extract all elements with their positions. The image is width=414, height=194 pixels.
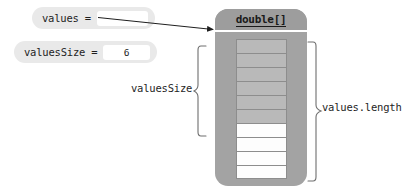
double-array-object: double[] <box>215 9 307 186</box>
array-cell <box>236 95 287 109</box>
valuessize-variable-label: valuesSize = <box>24 46 97 58</box>
array-cell <box>236 39 287 53</box>
valueslength-brace-icon <box>305 40 323 186</box>
values-reference-arrow <box>0 0 414 194</box>
values-variable-label: values = <box>42 12 91 24</box>
values-variable-box: values = <box>32 7 155 29</box>
valuessize-brace-icon <box>192 44 210 138</box>
array-cell <box>236 81 287 95</box>
array-cell <box>236 67 287 81</box>
array-cell-list <box>236 39 287 179</box>
array-cell <box>236 109 287 123</box>
values-variable-value <box>97 11 148 26</box>
valuessize-variable-value: 6 <box>103 45 150 60</box>
array-type-header: double[] <box>215 9 307 32</box>
array-cell <box>236 151 287 165</box>
valuessize-brace-label: valuesSize <box>131 82 192 94</box>
array-cell <box>236 53 287 67</box>
array-cell <box>236 123 287 137</box>
valuessize-variable-box: valuesSize = 6 <box>14 41 157 63</box>
array-cell <box>236 137 287 151</box>
valueslength-brace-label: values.length <box>322 101 402 113</box>
array-cell <box>236 165 287 179</box>
array-type-label: double[] <box>236 13 287 27</box>
